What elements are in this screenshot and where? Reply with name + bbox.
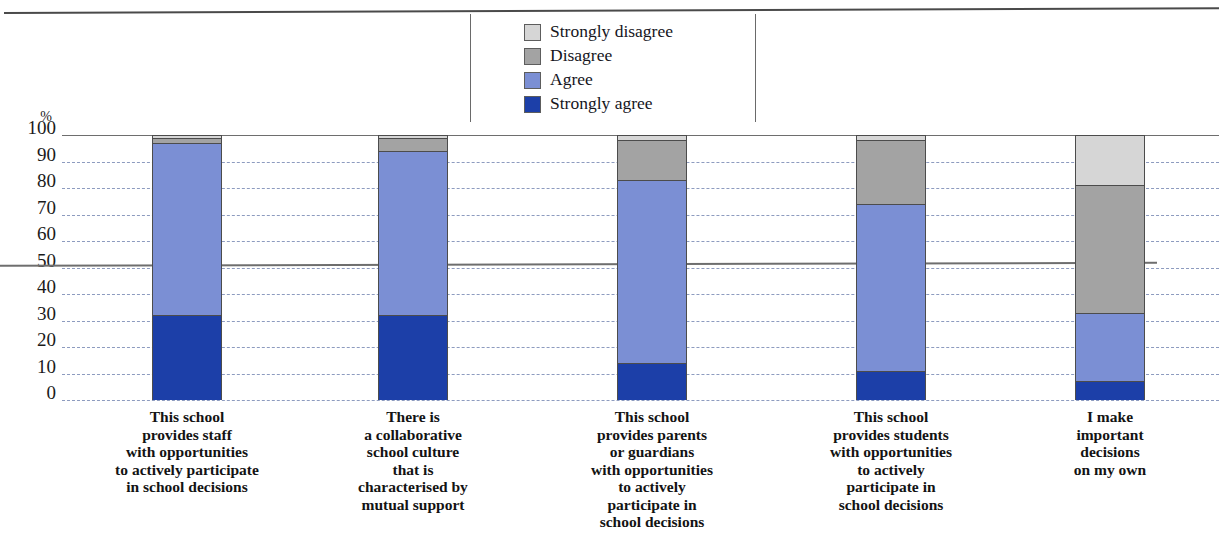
legend-item: Disagree	[524, 44, 754, 68]
bar-segment	[856, 371, 926, 400]
category-label-line: decisions	[1000, 443, 1220, 461]
y-axis-tick-label: 30	[12, 304, 56, 323]
bar-segment	[378, 138, 448, 151]
category-label-line: There is	[303, 408, 523, 426]
category-label-line: a collaborative	[303, 426, 523, 444]
bar-segment	[617, 363, 687, 400]
category-label-line: with opportunities	[542, 461, 762, 479]
category-label: This schoolprovides studentswith opportu…	[781, 408, 1001, 513]
bar-segment	[1075, 185, 1145, 312]
bar-segment	[152, 315, 222, 400]
category-label-line: provides staff	[77, 426, 297, 444]
category-label-line: to actively	[542, 478, 762, 496]
category-label-line: school decisions	[781, 496, 1001, 514]
bar-segment	[1075, 381, 1145, 400]
category-label: I makeimportantdecisionson my own	[1000, 408, 1220, 478]
category-label-line: This school	[542, 408, 762, 426]
bar-column	[378, 135, 448, 400]
category-label-line: with opportunities	[77, 443, 297, 461]
bar-segment	[856, 204, 926, 371]
category-label: This schoolprovides staffwith opportunit…	[77, 408, 297, 496]
legend-swatch-icon	[524, 24, 541, 41]
category-label-line: I make	[1000, 408, 1220, 426]
bar-segment	[617, 180, 687, 363]
category-label-line: This school	[781, 408, 1001, 426]
legend-item: Strongly disagree	[524, 20, 754, 44]
category-label-line: characterised by	[303, 478, 523, 496]
y-axis-tick-label: 100	[12, 118, 56, 137]
category-label-line: school decisions	[542, 513, 762, 531]
gridline	[62, 400, 1219, 401]
category-label-line: important	[1000, 426, 1220, 444]
category-label-line: participate in	[542, 496, 762, 514]
legend-swatch-icon	[524, 48, 541, 65]
bar-column	[1075, 135, 1145, 400]
legend-item-label: Agree	[550, 71, 593, 89]
legend-item-label: Strongly disagree	[550, 23, 673, 41]
category-label-line: mutual support	[303, 496, 523, 514]
bar-column	[152, 135, 222, 400]
legend-swatch-icon	[524, 96, 541, 113]
category-label-line: that is	[303, 461, 523, 479]
category-label: There isa collaborativeschool culturetha…	[303, 408, 523, 513]
category-label-line: on my own	[1000, 461, 1220, 479]
bar-segment	[856, 140, 926, 204]
category-label-line: in school decisions	[77, 478, 297, 496]
stacked-bar-chart: Strongly disagreeDisagreeAgreeStrongly a…	[0, 0, 1223, 534]
bar-segment	[617, 140, 687, 180]
category-label-line: to actively	[781, 461, 1001, 479]
bar-segment	[1075, 135, 1145, 185]
category-label-line: to actively participate	[77, 461, 297, 479]
category-label-line: provides parents	[542, 426, 762, 444]
bar-column	[856, 135, 926, 400]
bar-segment	[1075, 313, 1145, 382]
y-axis-tick-label: 10	[12, 357, 56, 376]
legend-item-label: Disagree	[550, 47, 612, 65]
y-axis-tick-label: 20	[12, 330, 56, 349]
y-axis-tick-label: 70	[12, 198, 56, 217]
category-label-line: provides students	[781, 426, 1001, 444]
bar-segment	[152, 143, 222, 315]
y-axis-tick-label: 80	[12, 171, 56, 190]
top-rule	[4, 7, 1219, 14]
legend-item-label: Strongly agree	[550, 95, 653, 113]
category-label-line: participate in	[781, 478, 1001, 496]
category-label-line: school culture	[303, 443, 523, 461]
y-axis-tick-label: 60	[12, 224, 56, 243]
legend-divider-right	[755, 14, 756, 122]
category-label-line: with opportunities	[781, 443, 1001, 461]
category-label-line: This school	[77, 408, 297, 426]
y-axis-tick-label: 0	[12, 383, 56, 402]
chart-legend: Strongly disagreeDisagreeAgreeStrongly a…	[524, 20, 754, 116]
legend-item: Strongly agree	[524, 92, 754, 116]
legend-divider-left	[470, 14, 471, 122]
bar-column	[617, 135, 687, 400]
bar-segment	[378, 315, 448, 400]
legend-swatch-icon	[524, 72, 541, 89]
y-axis-tick-label: 40	[12, 277, 56, 296]
category-label: This schoolprovides parentsor guardiansw…	[542, 408, 762, 531]
category-label-line: or guardians	[542, 443, 762, 461]
y-axis: % 1009080706050403020100	[8, 0, 56, 534]
legend-item: Agree	[524, 68, 754, 92]
bar-segment	[378, 151, 448, 315]
y-axis-tick-label: 90	[12, 145, 56, 164]
